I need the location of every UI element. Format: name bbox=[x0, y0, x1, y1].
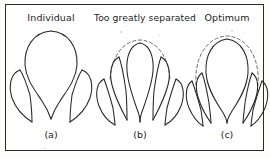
central-lobe-path-right bbox=[227, 39, 248, 123]
panel-individual: Individual (a) bbox=[6, 5, 96, 150]
central-lobe-path bbox=[25, 31, 51, 119]
inner-left-lobe-path bbox=[196, 73, 211, 123]
central-lobe-path-right bbox=[51, 31, 77, 119]
inner-right-lobe-path bbox=[243, 73, 258, 123]
panel-title-too-greatly-separated: Too greatly separated bbox=[94, 12, 186, 23]
inner-right-lobe-inner-path bbox=[153, 57, 161, 120]
panel-optimum: Optimum bbox=[184, 5, 270, 150]
panel-caption-b: (b) bbox=[94, 129, 186, 140]
dashed-envelope-path bbox=[110, 40, 170, 79]
outer-left-lobe-inner-path bbox=[192, 81, 203, 126]
central-lobe-path bbox=[206, 39, 227, 123]
canopy-drawing-optimum bbox=[184, 23, 270, 127]
figure-border: Individual (a) Too greatly separated bbox=[5, 4, 264, 151]
central-lobe-path-right bbox=[140, 43, 153, 122]
central-lobe-path bbox=[127, 43, 140, 122]
panel-caption-c: (c) bbox=[184, 129, 270, 140]
panel-too-greatly-separated: Too greatly separated bbox=[94, 5, 186, 150]
canopy-drawing-individual bbox=[6, 23, 96, 127]
right-lobe-path bbox=[70, 70, 92, 122]
canopy-drawing-too-greatly-separated bbox=[94, 23, 186, 127]
figure-root: Individual (a) Too greatly separated bbox=[0, 0, 270, 158]
panel-title-optimum: Optimum bbox=[184, 12, 270, 23]
panel-title-individual: Individual bbox=[6, 12, 96, 23]
outer-right-lobe-inner-path bbox=[251, 81, 262, 126]
inner-left-lobe-inner-path bbox=[119, 57, 127, 120]
left-lobe-path bbox=[10, 70, 32, 122]
panel-caption-a: (a) bbox=[6, 129, 96, 140]
dashed-envelope-path bbox=[196, 36, 258, 85]
